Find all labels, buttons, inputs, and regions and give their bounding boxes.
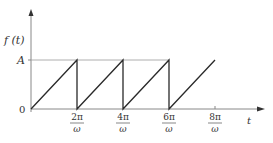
x-tick-label-6pi: 6π ω	[162, 112, 176, 134]
tick-denominator: ω	[73, 124, 81, 134]
tick-denominator: ω	[119, 124, 127, 134]
y-tick-label-a: A	[16, 54, 25, 67]
x-axis-arrow-icon	[257, 107, 265, 112]
tick-denominator: ω	[211, 124, 219, 134]
tick-numerator: 2π	[71, 112, 83, 122]
x-tick-label-4pi: 4π ω	[116, 112, 130, 134]
x-tick-label-2pi: 2π ω	[70, 112, 84, 134]
x-axis-label: t	[247, 115, 252, 126]
y-axis-label: f (t)	[3, 34, 25, 47]
tick-numerator: 6π	[163, 112, 175, 122]
tick-denominator: ω	[165, 124, 173, 134]
sawtooth-chart: f (t) A 0 t 2π ω 4π ω 6π ω 8π ω	[0, 0, 273, 143]
y-axis-arrow-icon	[29, 9, 34, 16]
sawtooth-series	[31, 60, 215, 109]
tick-numerator: 4π	[117, 112, 129, 122]
x-tick-label-8pi: 8π ω	[208, 112, 222, 134]
tick-numerator: 8π	[209, 112, 221, 122]
origin-label: 0	[19, 104, 25, 115]
